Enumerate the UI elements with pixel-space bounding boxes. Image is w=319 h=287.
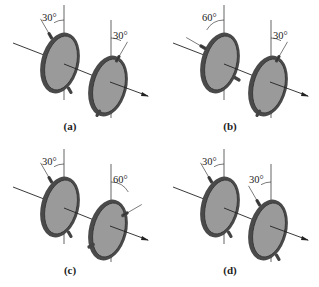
arrowhead-icon <box>141 236 149 241</box>
angle-label: 30° <box>113 30 128 41</box>
panel-caption: (d) <box>215 264 245 276</box>
axis-tab-icon <box>277 255 280 259</box>
propagation-axis <box>13 187 44 199</box>
polarizer <box>82 42 134 121</box>
angle-label: 30° <box>202 156 217 167</box>
arrowhead-icon <box>141 92 149 97</box>
angle-label: 30° <box>249 174 264 185</box>
polarizer <box>186 28 246 97</box>
polarizer <box>242 42 294 121</box>
panel-a: 30°30° (a) <box>0 0 160 144</box>
polarizer <box>34 163 86 242</box>
arrowhead-icon <box>301 92 309 97</box>
axis-tab-icon <box>229 232 232 236</box>
panel-d: 30°30° (d) <box>160 144 319 287</box>
panel-caption: (a) <box>55 120 85 132</box>
polarizer <box>242 186 294 265</box>
axis-tab-icon <box>235 78 239 81</box>
angle-label: 60° <box>202 12 217 23</box>
angle-label: 30° <box>42 156 57 167</box>
axis-tab-icon <box>97 111 100 115</box>
panel-b: 60°30° (b) <box>160 0 319 144</box>
panel-caption: (c) <box>55 264 85 276</box>
polarizer <box>194 163 246 242</box>
panel-c: 30°60° (c) <box>0 144 160 287</box>
arrowhead-icon <box>301 236 309 241</box>
propagation-axis <box>173 187 204 199</box>
angle-label: 30° <box>42 12 57 23</box>
propagation-axis <box>13 43 44 55</box>
axis-tab-icon <box>69 232 72 236</box>
panel-caption: (b) <box>215 120 245 132</box>
polarizer <box>34 19 86 98</box>
axis-tab-icon <box>89 245 93 248</box>
angle-label: 30° <box>273 30 288 41</box>
axis-tab-icon <box>257 111 260 115</box>
polarizer <box>82 195 142 264</box>
angle-label: 60° <box>113 174 128 185</box>
axis-tab-icon <box>69 88 72 92</box>
